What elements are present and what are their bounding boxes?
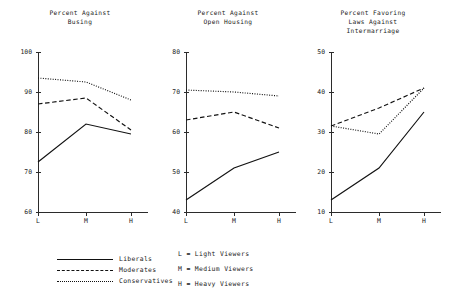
series-line-conservatives: [186, 90, 279, 96]
figure-root: Percent Against Busing 60708090100LMH Pe…: [0, 0, 453, 305]
viewer-key: L = Light Viewers M = Medium Viewers H =…: [178, 247, 318, 292]
y-tick-label: 50: [317, 48, 325, 56]
key-row-medium: M = Medium Viewers: [178, 262, 318, 277]
y-tick-label: 20: [317, 168, 325, 176]
x-tick-label-M: M: [232, 217, 236, 225]
series-line-moderates: [331, 88, 424, 126]
plot-area-intermarriage: 1020304050LMH: [293, 0, 453, 245]
x-tick-label-M: M: [377, 217, 381, 225]
y-tick-label: 40: [317, 88, 325, 96]
legend-line-solid-icon: [57, 259, 113, 260]
series-line-liberals: [186, 152, 279, 200]
x-tick-label-H: H: [129, 217, 133, 225]
y-tick-label: 10: [317, 208, 325, 216]
y-tick-label: 70: [24, 168, 32, 176]
plot-svg-busing: 60708090100LMH: [0, 0, 160, 245]
y-tick-label: 80: [172, 48, 180, 56]
legend-label-moderates: Moderates: [119, 265, 156, 276]
y-tick-label: 100: [20, 48, 32, 56]
y-tick-label: 80: [24, 128, 32, 136]
series-line-conservatives: [38, 78, 131, 100]
plot-area-open-housing: 4050607080LMH: [148, 0, 308, 245]
chart-panel-intermarriage: Percent Favoring Laws Against Intermarri…: [293, 0, 453, 245]
x-tick-label-L: L: [184, 217, 188, 225]
chart-panel-open-housing: Percent Against Open Housing 4050607080L…: [148, 0, 308, 245]
legend-item-moderates: Moderates: [57, 265, 192, 276]
plot-area-busing: 60708090100LMH: [0, 0, 160, 245]
legend-label-conservatives: Conservatives: [119, 276, 173, 287]
key-row-light: L = Light Viewers: [178, 247, 318, 262]
y-tick-label: 70: [172, 88, 180, 96]
chart-panel-busing: Percent Against Busing 60708090100LMH: [0, 0, 160, 245]
series-line-moderates: [186, 112, 279, 128]
key-row-heavy: H = Heavy Viewers: [178, 277, 318, 292]
y-tick-label: 60: [24, 208, 32, 216]
series-line-conservatives: [331, 88, 424, 134]
x-tick-label-L: L: [36, 217, 40, 225]
x-tick-label-M: M: [84, 217, 88, 225]
x-tick-label-H: H: [422, 217, 426, 225]
legend: Liberals Moderates Conservatives: [57, 254, 192, 287]
series-line-liberals: [331, 112, 424, 200]
y-tick-label: 40: [172, 208, 180, 216]
y-tick-label: 50: [172, 168, 180, 176]
y-tick-label: 60: [172, 128, 180, 136]
plot-svg-open-housing: 4050607080LMH: [148, 0, 308, 245]
series-line-liberals: [38, 124, 131, 162]
legend-line-dotted-icon: [57, 281, 113, 282]
x-tick-label-L: L: [329, 217, 333, 225]
y-tick-label: 90: [24, 88, 32, 96]
y-tick-label: 30: [317, 128, 325, 136]
x-tick-label-H: H: [277, 217, 281, 225]
legend-item-conservatives: Conservatives: [57, 276, 192, 287]
legend-item-liberals: Liberals: [57, 254, 192, 265]
legend-line-dashed-icon: [57, 270, 113, 271]
plot-svg-intermarriage: 1020304050LMH: [293, 0, 453, 245]
legend-label-liberals: Liberals: [119, 254, 152, 265]
